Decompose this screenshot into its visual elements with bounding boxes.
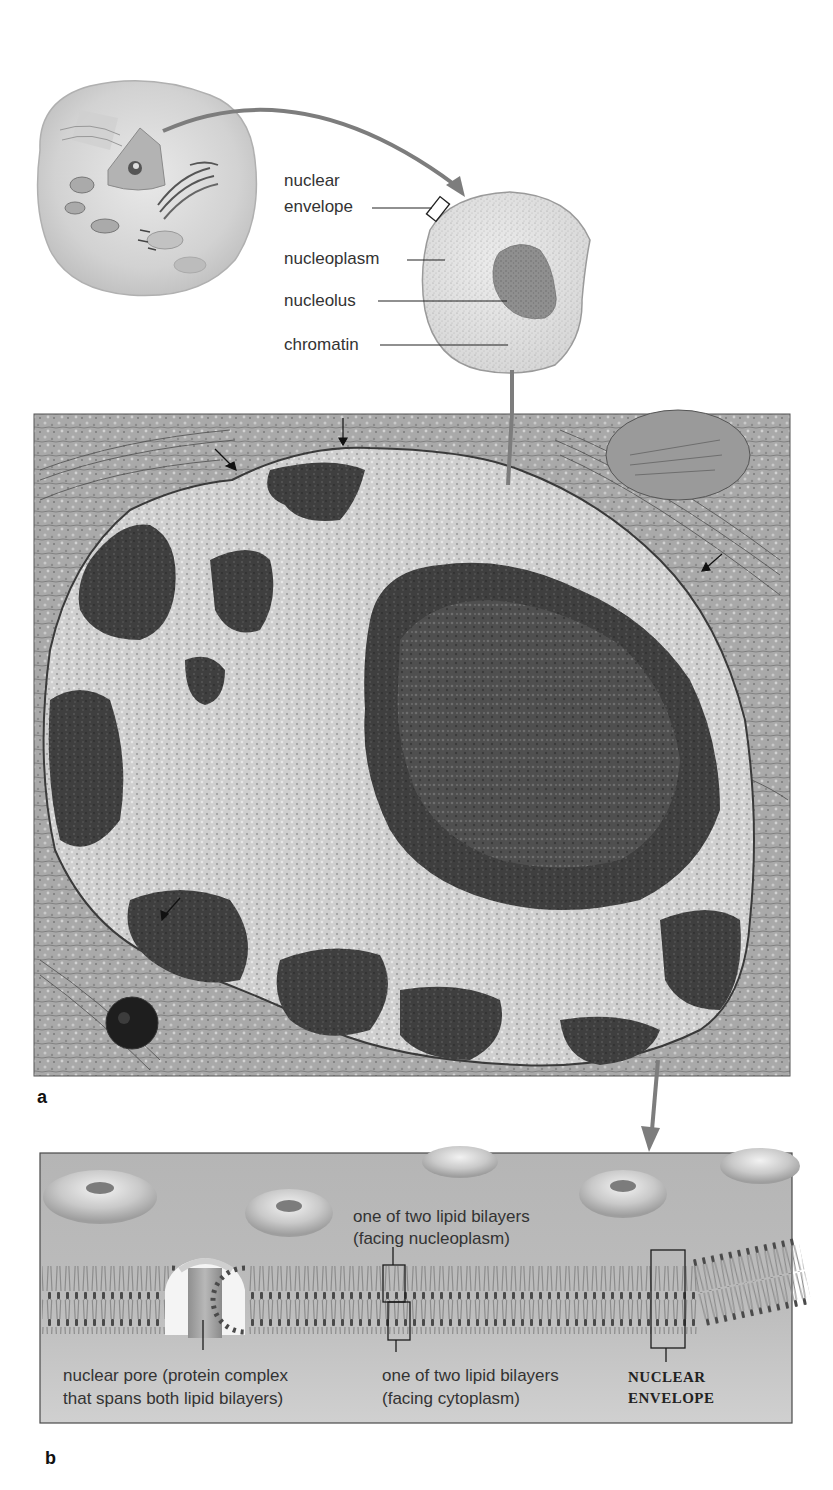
label-nuclear-envelope-caps-line1: NUCLEAR [628,1367,706,1387]
label-nucleoplasm: nucleoplasm [284,249,379,269]
label-outer-bilayer-line2: (facing cytoplasm) [382,1388,520,1409]
panel-letter-b: b [45,1448,56,1469]
label-outer-bilayer-line1: one of two lipid bilayers [382,1365,559,1386]
label-nuclear-envelope-caps-line2: ENVELOPE [628,1388,715,1408]
label-nuclear-envelope-line2: envelope [284,197,353,217]
nucleus-illustration [422,192,590,373]
label-nuclear-pore-line1: nuclear pore (protein complex [63,1365,288,1386]
nuclear-pore-cross-section [165,1258,245,1338]
electron-micrograph [34,410,790,1076]
label-chromatin: chromatin [284,335,359,355]
label-nuclear-pore-line2: that spans both lipid bilayers) [63,1388,283,1409]
label-nucleolus: nucleolus [284,291,356,311]
label-nuclear-envelope-line1: nuclear [284,171,340,191]
figure-graphics [0,0,833,1490]
label-inner-bilayer-line2: (facing nucleoplasm) [353,1228,510,1249]
label-inner-bilayer-line1: one of two lipid bilayers [353,1206,530,1227]
panel-letter-a: a [37,1087,47,1108]
